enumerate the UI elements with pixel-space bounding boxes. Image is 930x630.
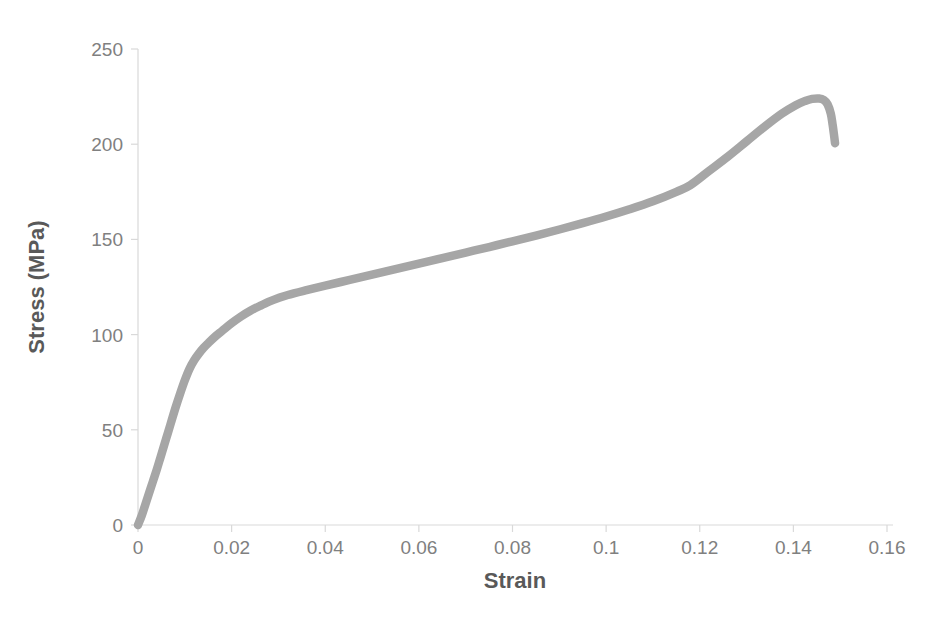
chart-canvas: 050100150200250 00.020.040.060.080.10.12… [0,0,930,630]
x-tick-label: 0.16 [869,537,906,558]
x-tick-label: 0.04 [307,537,344,558]
chart-background [0,0,930,630]
y-tick-label: 100 [91,325,123,346]
x-tick-label: 0.1 [593,537,619,558]
x-tick-label: 0 [133,537,144,558]
x-tick-label: 0.12 [681,537,718,558]
x-axis-title: Strain [484,568,546,593]
x-tick-label: 0.14 [775,537,812,558]
x-tick-label: 0.08 [494,537,531,558]
y-tick-label: 50 [102,420,123,441]
y-axis-title: Stress (MPa) [24,220,49,353]
stress-strain-chart: 050100150200250 00.020.040.060.080.10.12… [0,0,930,630]
x-tick-label: 0.06 [400,537,437,558]
y-tick-label: 200 [91,134,123,155]
y-tick-label: 0 [112,515,123,536]
y-tick-label: 250 [91,39,123,60]
y-tick-label: 150 [91,229,123,250]
x-tick-label: 0.02 [213,537,250,558]
